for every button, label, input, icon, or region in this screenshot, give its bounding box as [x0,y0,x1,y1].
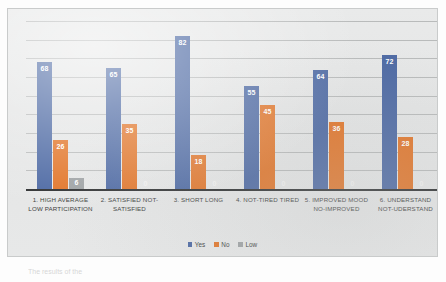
bar-value-label: 0 [350,180,354,187]
bar-yes[interactable]: 65 [106,68,121,189]
bar-low[interactable]: 0 [276,179,291,189]
bar-yes[interactable]: 82 [175,36,190,189]
bar-value-label: 35 [125,127,133,134]
bar-value-label: 18 [194,158,202,165]
legend-swatch-icon [214,242,219,247]
bar-no[interactable]: 26 [53,140,68,189]
category-label: 5. IMPROVED MOOD NO-IMPROVED [302,195,371,213]
bar-value-label: 68 [40,65,48,72]
bar-group: 72280 [371,21,438,189]
bar-low[interactable]: 0 [345,179,360,189]
bar-chart-figure: 682666535082180554506436072280 1. HIGH A… [7,8,438,257]
bar-value-label: 26 [56,143,64,150]
bar-value-label: 0 [419,180,423,187]
scanned-page: 682666535082180554506436072280 1. HIGH A… [0,0,446,282]
bar-low[interactable]: 6 [69,178,84,189]
bar-group: 55450 [233,21,302,189]
category-label: 4. NOT-TIRED TIRED [233,195,302,213]
legend-label: No [221,241,229,248]
legend-item[interactable]: Yes [188,241,205,248]
bar-low[interactable]: 0 [138,179,153,189]
bar-no[interactable]: 45 [260,105,275,189]
bar-no[interactable]: 18 [191,155,206,189]
bar-no[interactable]: 36 [329,122,344,189]
bar-no[interactable]: 28 [398,137,413,189]
legend-swatch-icon [238,242,243,247]
bar-group: 65350 [95,21,164,189]
bar-value-label: 36 [332,125,340,132]
bar-value-label: 0 [281,180,285,187]
legend-item[interactable]: Low [238,241,257,248]
legend-label: Low [245,241,257,248]
bar-low[interactable]: 0 [207,179,222,189]
category-label: 1. HIGH AVERAGE LOW PARTICIPATION [26,195,95,213]
bar-groups: 682666535082180554506436072280 [26,21,438,189]
bar-value-label: 45 [263,108,271,115]
category-label: 3. SHORT LONG [164,195,233,213]
bar-yes[interactable]: 72 [382,55,397,189]
bar-value-label: 65 [109,71,117,78]
chart-legend: YesNoLow [8,241,437,248]
bar-group: 64360 [302,21,371,189]
legend-item[interactable]: No [214,241,229,248]
category-label: 2. SATISFIED NOT-SATISFIED [95,195,164,213]
bar-yes[interactable]: 64 [313,70,328,189]
x-axis-line [26,189,438,191]
bar-value-label: 0 [143,180,147,187]
category-label: 6. UNDERSTAND NOT-UDERSTAND [371,195,438,213]
bar-low[interactable]: 0 [414,179,429,189]
bar-value-label: 82 [178,39,186,46]
bar-no[interactable]: 35 [122,124,137,189]
bar-group: 68266 [26,21,95,189]
bar-group: 82180 [164,21,233,189]
category-axis-labels: 1. HIGH AVERAGE LOW PARTICIPATION2. SATI… [26,195,438,213]
caption-fragment: The results of the [28,268,228,277]
legend-swatch-icon [188,242,193,247]
bar-value-label: 0 [212,180,216,187]
bar-yes[interactable]: 55 [244,86,259,189]
bar-yes[interactable]: 68 [37,62,52,189]
bar-value-label: 72 [385,58,393,65]
bar-value-label: 55 [247,89,255,96]
bar-value-label: 28 [401,140,409,147]
bar-value-label: 64 [316,73,324,80]
legend-label: Yes [195,241,205,248]
bar-value-label: 6 [74,179,78,186]
